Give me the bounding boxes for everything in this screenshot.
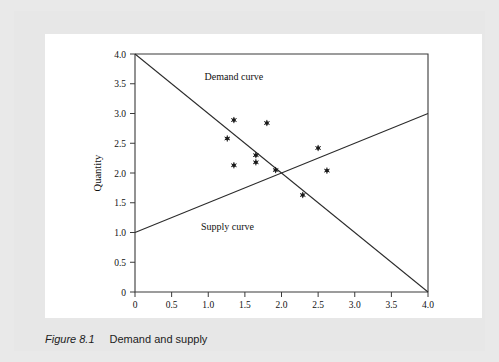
y-tick-label: 2.0 [114, 169, 126, 179]
x-tick-label: 1.0 [202, 300, 214, 310]
curve-lines [135, 54, 428, 292]
x-tick-label: 2.5 [312, 300, 324, 310]
axis-tick-labels: 00.51.01.52.02.53.03.54.000.51.01.52.02.… [114, 50, 434, 311]
y-tick-label: 1.5 [114, 198, 126, 208]
figure-caption: Figure 8.1 Demand and supply [45, 329, 465, 347]
curve-supply-curve [135, 114, 428, 233]
y-tick-label: 1.0 [114, 228, 126, 238]
data-point [225, 135, 230, 141]
axis-ticks [130, 54, 428, 297]
scatter-points [225, 117, 330, 198]
y-tick-label: 0 [121, 288, 126, 298]
data-point [231, 162, 236, 168]
x-tick-label: 2.0 [276, 300, 288, 310]
x-tick-label: 0.5 [166, 300, 178, 310]
demand-supply-scatter-chart: 00.51.01.52.02.53.03.54.000.51.01.52.02.… [45, 34, 482, 318]
x-tick-label: 3.5 [385, 300, 397, 310]
y-tick-label: 3.5 [114, 79, 126, 89]
y-tick-label: 2.5 [114, 139, 126, 149]
data-point [253, 159, 258, 165]
data-point [324, 168, 329, 174]
data-point [231, 117, 236, 123]
data-point [264, 120, 269, 126]
data-point [315, 145, 320, 151]
x-tick-label: 3.0 [349, 300, 361, 310]
figure-screenshot: 00.51.01.52.02.53.03.54.000.51.01.52.02.… [0, 0, 499, 362]
y-tick-label: 0.5 [114, 258, 126, 268]
y-tick-label: 4.0 [114, 50, 126, 60]
figure-caption-text: Demand and supply [110, 333, 208, 345]
figure-block: 00.51.01.52.02.53.03.54.000.51.01.52.02.… [14, 11, 485, 351]
plot-panel: 00.51.01.52.02.53.03.54.000.51.01.52.02.… [45, 34, 482, 318]
annotation-demand-curve: Demand curve [205, 71, 264, 82]
data-point [300, 192, 305, 198]
x-tick-label: 0 [133, 300, 138, 310]
annotation-supply-curve: Supply curve [201, 221, 255, 232]
x-tick-label: 1.5 [239, 300, 251, 310]
data-point [253, 152, 258, 158]
y-tick-label: 3.0 [114, 109, 126, 119]
figure-caption-number: Figure 8.1 [45, 333, 95, 345]
y-axis-title: Quantity [92, 154, 103, 191]
x-tick-label: 4.0 [422, 300, 434, 310]
